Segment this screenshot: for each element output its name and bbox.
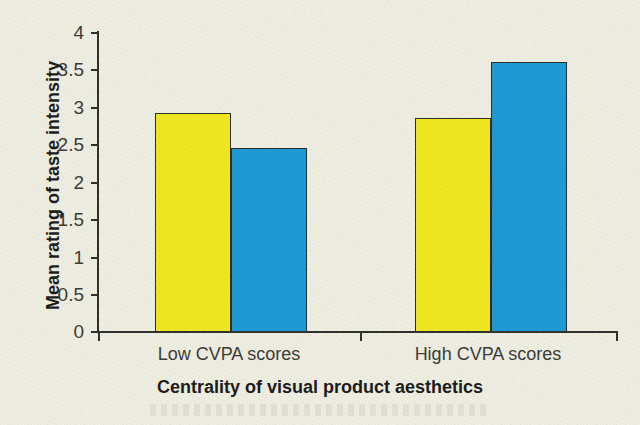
- high-cvpa-blue-bar: [491, 62, 567, 333]
- x-axis-tick-left: [98, 333, 100, 341]
- low-cvpa-blue-bar: [231, 148, 307, 333]
- y-axis-tick-4: [91, 32, 99, 34]
- y-axis-tick-1: [91, 257, 98, 259]
- y-axis-tick-0-5: [91, 294, 98, 296]
- high-cvpa-yellow-bar: [415, 118, 491, 333]
- low-cvpa-yellow-bar: [155, 113, 231, 333]
- y-axis-tick-2: [91, 182, 98, 184]
- x-axis-tick-middle: [360, 333, 362, 341]
- x-axis-label-high-cvpa: High CVPA scores: [398, 344, 578, 365]
- y-axis-tick-2-5: [91, 144, 98, 146]
- x-axis-tick-right: [616, 333, 618, 341]
- x-axis-line: [97, 331, 618, 333]
- y-axis-tick-3: [91, 107, 98, 109]
- page-bleed-through: [150, 404, 490, 416]
- x-axis-title: Centrality of visual product aesthetics: [0, 377, 640, 398]
- y-axis-title: Mean rating of taste intensity: [43, 36, 64, 336]
- y-axis-tick-1-5: [91, 219, 98, 221]
- bar-chart-figure: 4 3.5 3 2.5 2 1.5 1 0.5 0 Low CVPA score…: [0, 0, 640, 425]
- y-axis-tick-3-5: [91, 69, 98, 71]
- x-axis-label-low-cvpa: Low CVPA scores: [139, 344, 319, 365]
